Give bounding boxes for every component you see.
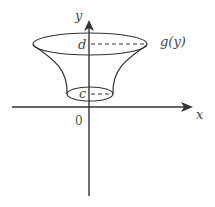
- revolution-surface-diagram: y x 0 d c g(y): [0, 0, 215, 207]
- y-axis-label: y: [74, 8, 83, 23]
- curve-label: g(y): [160, 34, 186, 49]
- upper-bound-label: d: [78, 37, 86, 52]
- origin-label: 0: [75, 114, 83, 128]
- x-axis-label: x: [196, 107, 204, 122]
- lower-bound-label: c: [79, 86, 87, 101]
